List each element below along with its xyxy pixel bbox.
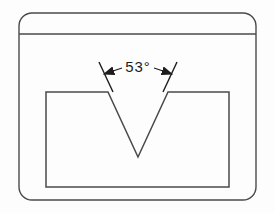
drawing-canvas: 53° [0, 0, 275, 213]
workpiece-body [46, 92, 229, 187]
extension-line-right [163, 62, 177, 92]
rounded-border-frame [19, 13, 256, 200]
leader-arrow-left-icon [104, 68, 122, 74]
angle-dimension-label: 53° [125, 58, 151, 75]
technical-drawing-svg: 53° [0, 0, 275, 213]
leader-arrow-right-icon [154, 68, 172, 74]
extension-line-left [99, 62, 113, 92]
